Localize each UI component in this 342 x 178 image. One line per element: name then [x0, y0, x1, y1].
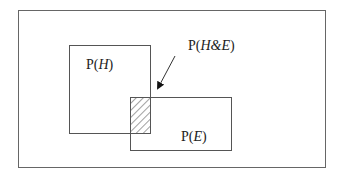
venn-diagram: P(H) P(E) P(H&E) — [0, 0, 342, 178]
arrow-icon — [158, 56, 175, 88]
intersection-hatched-region — [130, 97, 151, 133]
label-p-h-and-e: P(H&E) — [188, 38, 235, 54]
label-p-h: P(H) — [86, 57, 114, 73]
label-p-e: P(E) — [181, 129, 207, 145]
universe-box — [19, 11, 326, 168]
